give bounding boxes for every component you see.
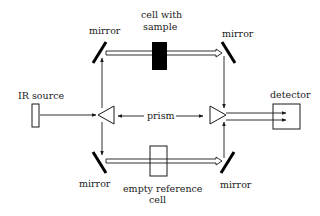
sample-cell-label-line1: cell with xyxy=(141,9,182,20)
reference-cell-label-line1: empty reference xyxy=(123,183,203,194)
mirror-bottom-left-icon xyxy=(93,152,106,173)
left-prism-icon xyxy=(98,106,114,124)
mirror-top-left-label: mirror xyxy=(89,25,121,36)
ir-spectrometer-diagram: IR source mirror cell with sample mirror… xyxy=(0,0,320,216)
ir-source-label: IR source xyxy=(18,90,65,101)
detector-label: detector xyxy=(270,89,311,100)
sample-cell-label-line2: sample xyxy=(143,21,178,32)
mirror-top-left-icon xyxy=(93,42,106,63)
reference-cell-label-line2: cell xyxy=(149,194,166,205)
right-prism-icon xyxy=(210,106,226,124)
reference-beam xyxy=(106,157,222,165)
detector-icon xyxy=(273,104,300,129)
mirror-top-right-label: mirror xyxy=(222,28,254,39)
sample-cell-icon xyxy=(152,42,167,70)
prism-label: prism xyxy=(147,110,175,121)
mirror-bottom-right-label: mirror xyxy=(220,179,252,190)
ir-source-icon xyxy=(32,104,39,127)
mirror-bottom-left-label: mirror xyxy=(79,178,111,189)
mirror-bottom-right-icon xyxy=(221,152,234,173)
